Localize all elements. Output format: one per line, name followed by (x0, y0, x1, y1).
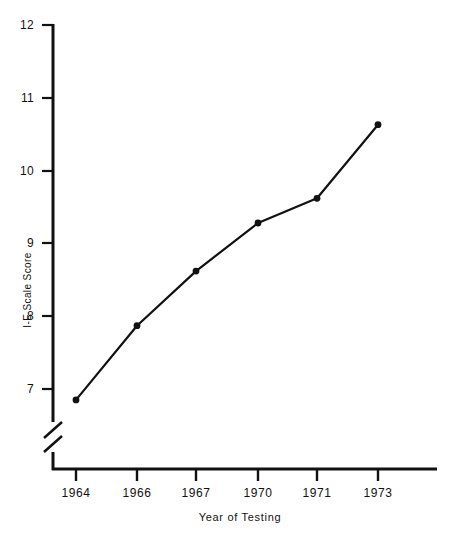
plot-area (0, 0, 449, 534)
chart-figure: I-E Scale Score 12 11 10 9 8 7 1 (0, 0, 449, 534)
data-point-1973 (375, 121, 382, 128)
x-tick-label-1966: 1966 (107, 486, 167, 500)
x-tick-label-1973: 1973 (348, 486, 408, 500)
y-axis-break-slash-lower (44, 436, 62, 452)
data-point-markers (73, 121, 382, 403)
data-point-1970 (255, 220, 262, 227)
data-point-1964 (73, 397, 80, 404)
x-tick-label-1964: 1964 (46, 486, 106, 500)
data-series-line (76, 125, 378, 400)
x-tick-label-1967: 1967 (166, 486, 226, 500)
data-point-1966 (134, 322, 141, 329)
data-point-1971 (314, 195, 321, 202)
x-tick-label-1971: 1971 (287, 486, 347, 500)
x-axis-title: Year of Testing (120, 511, 360, 523)
y-axis-break-slash-upper (44, 422, 62, 438)
data-point-1967 (193, 268, 200, 275)
x-tick-label-1970: 1970 (228, 486, 288, 500)
